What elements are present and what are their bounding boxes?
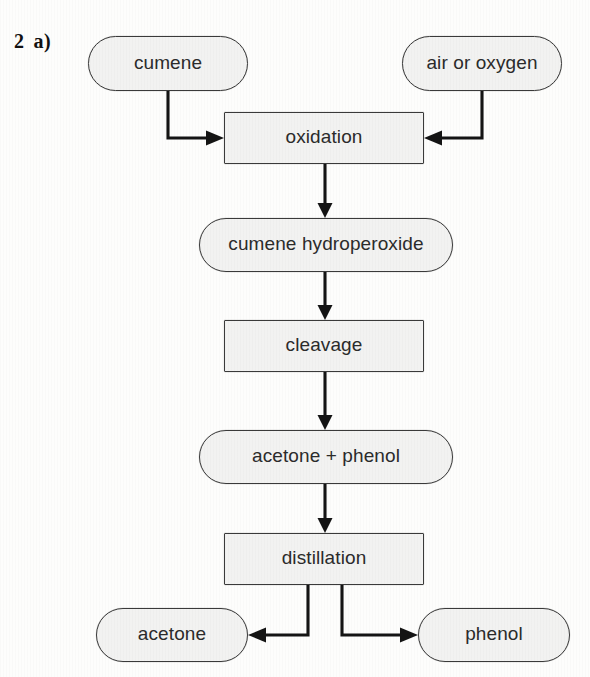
node-cumene[interactable]: cumene: [88, 36, 248, 91]
node-air-or-oxygen[interactable]: air or oxygen: [402, 36, 562, 91]
flowchart-page: 2a): [0, 0, 590, 677]
edge-air-or-oxygen-to-oxidation: [424, 91, 482, 146]
edge-oxidation-to-cumene-hydroperoxide: [318, 164, 333, 218]
edge-distillation-to-acetone: [248, 585, 308, 643]
node-distillation[interactable]: distillation: [224, 533, 424, 585]
node-acetone-plus-phenol[interactable]: acetone + phenol: [199, 430, 453, 484]
edge-cumene-to-oxidation: [168, 91, 224, 146]
edge-cumene-hydroperoxide-to-cleavage: [318, 272, 333, 320]
node-phenol[interactable]: phenol: [418, 608, 570, 662]
node-acetone[interactable]: acetone: [96, 608, 248, 662]
node-oxidation[interactable]: oxidation: [224, 112, 424, 164]
node-distillation-label: distillation: [282, 547, 367, 569]
node-cleavage-label: cleavage: [286, 334, 363, 356]
edge-distillation-to-phenol: [342, 585, 418, 643]
node-phenol-label: phenol: [465, 623, 523, 645]
edge-cleavage-to-acetone-plus-phenol: [318, 372, 333, 430]
node-cleavage[interactable]: cleavage: [224, 320, 424, 372]
node-oxidation-label: oxidation: [286, 126, 363, 148]
node-cumene-hydroperoxide-label: cumene hydroperoxide: [228, 233, 423, 255]
node-cumene-label: cumene: [134, 52, 202, 74]
node-acetone-label: acetone: [138, 623, 206, 645]
edge-acetone-plus-phenol-to-distillation: [318, 484, 333, 533]
node-acetone-plus-phenol-label: acetone + phenol: [252, 445, 400, 467]
node-cumene-hydroperoxide[interactable]: cumene hydroperoxide: [199, 218, 453, 272]
node-air-or-oxygen-label: air or oxygen: [426, 52, 537, 74]
